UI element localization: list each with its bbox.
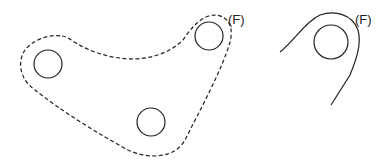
hole-right-figure bbox=[314, 25, 348, 59]
hole-left bbox=[34, 50, 62, 78]
label-f-right: (F) bbox=[355, 12, 372, 27]
label-f-left: (F) bbox=[228, 12, 245, 27]
solid-edge bbox=[280, 13, 359, 105]
hole-top-right bbox=[195, 22, 223, 50]
diagram-canvas: (F) (F) bbox=[0, 0, 386, 163]
hole-bottom bbox=[137, 108, 165, 136]
dashed-outline bbox=[21, 15, 232, 156]
